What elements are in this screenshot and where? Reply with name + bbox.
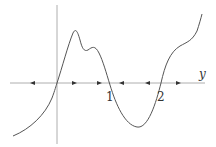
- equilibrium-label-2: 2: [157, 91, 165, 103]
- arrow-right-icon: [72, 81, 77, 85]
- arrow-left-icon: [30, 81, 35, 85]
- axis-label-y: y: [199, 68, 206, 80]
- arrow-right-icon: [97, 81, 102, 85]
- arrow-left-icon: [145, 81, 150, 85]
- arrow-left-icon: [119, 81, 124, 85]
- phase-diagram: [0, 0, 216, 147]
- arrow-right-icon: [176, 81, 181, 85]
- function-curve: [13, 14, 202, 136]
- equilibrium-label-1: 1: [106, 91, 114, 103]
